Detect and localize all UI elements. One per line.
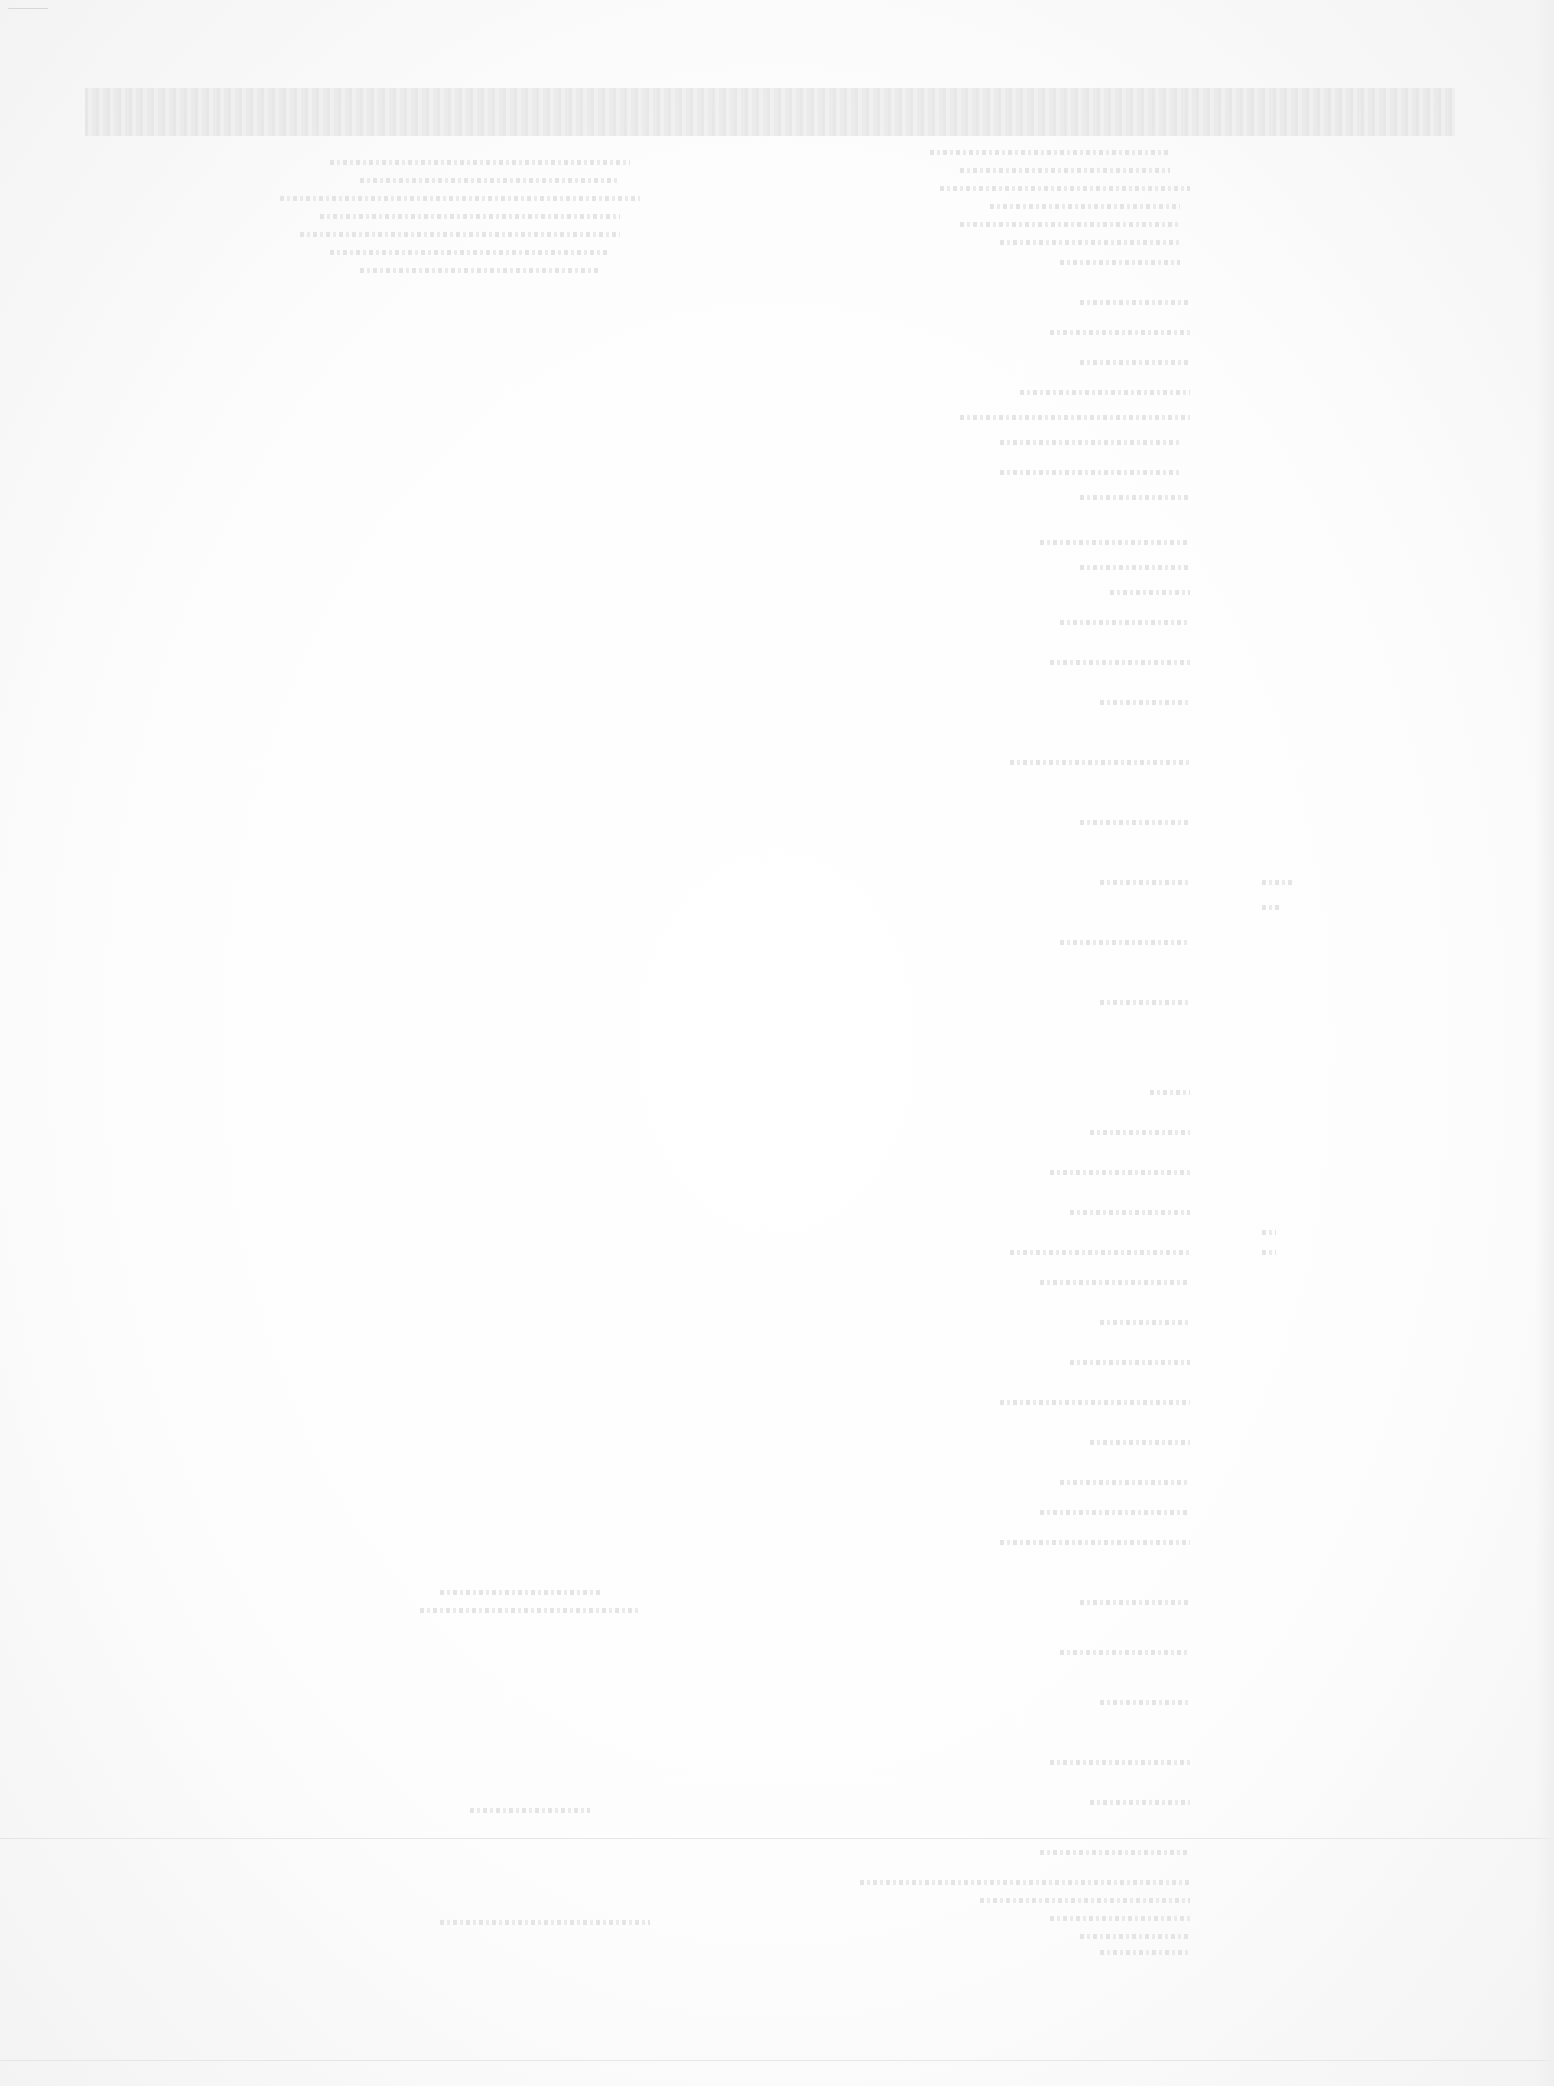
text-line <box>1070 1360 1190 1365</box>
text-line <box>960 168 1170 173</box>
text-line <box>1100 700 1190 705</box>
text-line <box>1010 1250 1190 1255</box>
text-line <box>1060 940 1190 945</box>
text-line <box>1000 440 1180 445</box>
text-line <box>1100 1700 1190 1705</box>
corner-mark <box>8 8 48 23</box>
text-line <box>1110 590 1190 595</box>
text-line <box>930 150 1170 155</box>
text-line <box>360 268 600 273</box>
text-line <box>280 196 640 201</box>
text-line <box>1060 620 1190 625</box>
text-line <box>1050 1760 1190 1765</box>
text-line <box>960 415 1190 420</box>
separator-rule <box>0 1838 1554 1839</box>
text-line <box>1050 1916 1190 1921</box>
text-line <box>420 1608 640 1613</box>
text-line <box>1040 540 1190 545</box>
text-line <box>940 186 1190 191</box>
text-line <box>990 204 1180 209</box>
text-line <box>1070 1210 1190 1215</box>
text-line <box>980 1898 1190 1903</box>
text-line <box>1090 1800 1190 1805</box>
text-line <box>1080 565 1190 570</box>
text-line <box>1050 1170 1190 1175</box>
text-line <box>1050 330 1190 335</box>
text-line <box>1080 360 1190 365</box>
text-line <box>470 1808 590 1813</box>
text-line <box>1100 880 1190 885</box>
bottom-rule <box>0 2060 1554 2061</box>
text-line <box>1080 495 1190 500</box>
text-line <box>1000 470 1180 475</box>
header-band <box>85 88 1455 136</box>
text-line <box>1100 1000 1190 1005</box>
text-line <box>1020 390 1190 395</box>
text-line <box>1060 1650 1190 1655</box>
text-line <box>1080 820 1190 825</box>
text-line <box>1040 1510 1190 1515</box>
text-line <box>320 214 620 219</box>
text-line <box>300 232 620 237</box>
text-line <box>1050 660 1190 665</box>
text-line <box>1000 1400 1190 1405</box>
text-line <box>360 178 620 183</box>
text-line <box>860 1880 1190 1885</box>
text-line <box>330 160 630 165</box>
margin-mark <box>1262 1250 1276 1255</box>
text-line <box>960 222 1180 227</box>
text-line <box>1100 1320 1190 1325</box>
text-line <box>1080 1934 1190 1939</box>
text-line <box>1080 1600 1190 1605</box>
margin-mark <box>1262 1230 1276 1235</box>
page-edge-shadow <box>1536 0 1554 2086</box>
scanned-page: illegible <box>0 0 1554 2086</box>
text-line <box>1040 1850 1190 1855</box>
margin-mark <box>1262 880 1292 885</box>
text-line <box>1090 1440 1190 1445</box>
text-line <box>1000 240 1180 245</box>
text-line <box>1000 1540 1190 1545</box>
text-line <box>1090 1130 1190 1135</box>
text-line <box>1010 760 1190 765</box>
text-line <box>440 1590 600 1595</box>
text-line <box>1040 1280 1190 1285</box>
text-line <box>440 1920 650 1925</box>
text-line <box>1080 300 1190 305</box>
text-line <box>330 250 610 255</box>
margin-mark <box>1262 905 1282 910</box>
text-line <box>1060 1480 1190 1485</box>
text-line <box>1100 1950 1190 1955</box>
text-line <box>1060 260 1180 265</box>
text-line <box>1150 1090 1190 1095</box>
